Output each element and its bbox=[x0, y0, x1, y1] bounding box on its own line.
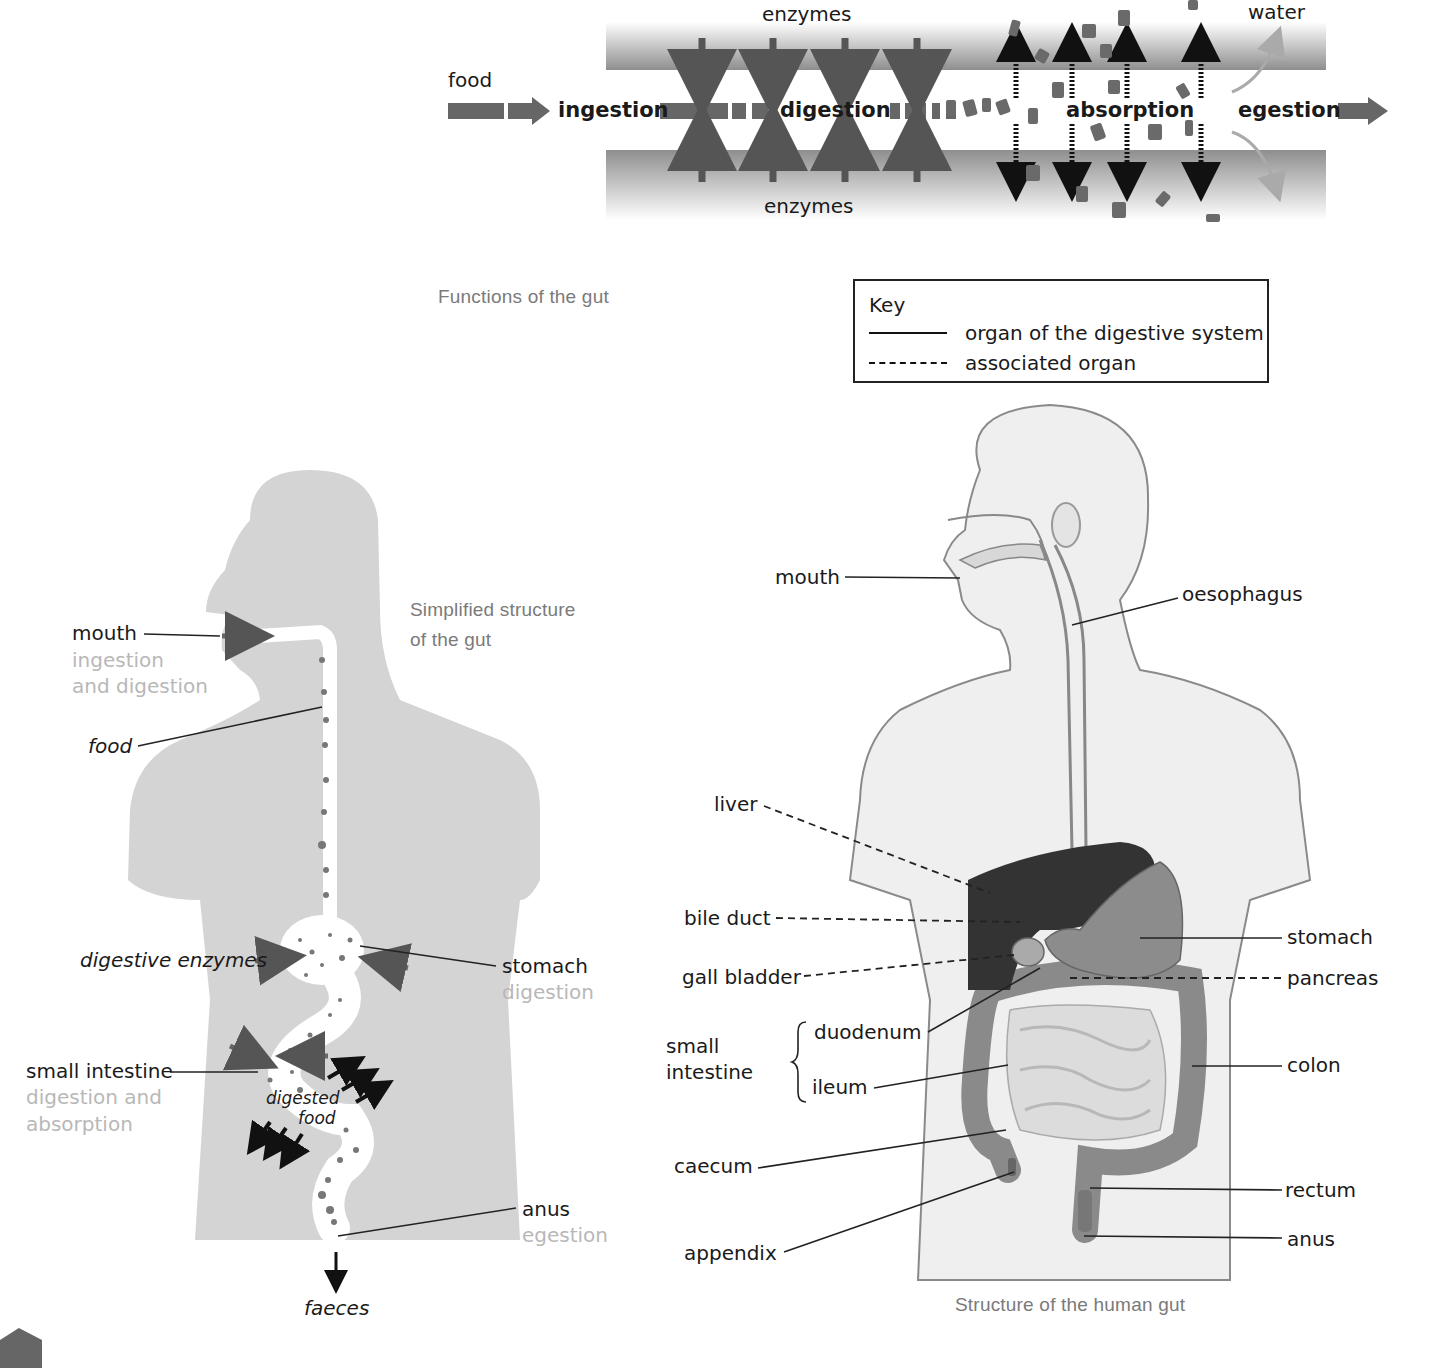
gut-wall-top bbox=[606, 22, 1326, 70]
struct-bile-duct-label: bile duct bbox=[684, 906, 771, 930]
key-item-dashed: associated organ bbox=[869, 351, 1136, 375]
simple-mouth-label: mouth bbox=[72, 621, 137, 645]
gut-wall-bottom bbox=[606, 150, 1326, 220]
food-arrow-icon bbox=[508, 97, 550, 125]
simple-mouth-function-2: and digestion bbox=[72, 674, 208, 698]
key-item-label: associated organ bbox=[965, 351, 1136, 375]
simplified-caption-1: Simplified structure bbox=[410, 598, 576, 622]
struct-caecum-label: caecum bbox=[674, 1154, 753, 1178]
struct-appendix-label: appendix bbox=[684, 1241, 777, 1265]
struct-small-intestine-label-1: small bbox=[666, 1034, 719, 1058]
faeces-label: faeces bbox=[304, 1296, 369, 1320]
simple-mouth-function-1: ingestion bbox=[72, 648, 164, 672]
struct-mouth-label: mouth bbox=[775, 565, 840, 589]
small-intestine-brace bbox=[792, 1022, 806, 1102]
struct-pancreas-label: pancreas bbox=[1287, 966, 1378, 990]
stage-ingestion: ingestion bbox=[558, 98, 669, 122]
water-label: water bbox=[1248, 0, 1305, 24]
simple-food-label: food bbox=[88, 734, 132, 758]
key-title: Key bbox=[869, 293, 905, 317]
simple-small-intestine-function-1: digestion and bbox=[26, 1085, 162, 1109]
digested-food-label-2: food bbox=[298, 1106, 336, 1130]
dashed-line-icon bbox=[869, 362, 947, 364]
simple-stomach-function: digestion bbox=[502, 980, 594, 1004]
functions-caption: Functions of the gut bbox=[438, 285, 609, 309]
simple-stomach-label: stomach bbox=[502, 954, 588, 978]
struct-colon-label: colon bbox=[1287, 1053, 1341, 1077]
stage-absorption: absorption bbox=[1066, 98, 1194, 122]
struct-liver-label: liver bbox=[714, 792, 757, 816]
stage-digestion: digestion bbox=[780, 98, 891, 122]
key-item-solid: organ of the digestive system bbox=[869, 321, 1264, 345]
struct-stomach-label: stomach bbox=[1287, 925, 1373, 949]
struct-oesophagus-label: oesophagus bbox=[1182, 582, 1303, 606]
structure-diagram bbox=[758, 405, 1310, 1280]
digestive-enzymes-label: digestive enzymes bbox=[80, 948, 267, 972]
struct-anus-label: anus bbox=[1287, 1227, 1335, 1251]
enzymes-top-label: enzymes bbox=[762, 2, 852, 26]
egestion-arrow-icon bbox=[1338, 97, 1388, 125]
simple-small-intestine-label: small intestine bbox=[26, 1059, 173, 1083]
struct-duodenum-label: duodenum bbox=[814, 1020, 921, 1044]
struct-small-intestine-label-2: intestine bbox=[666, 1060, 753, 1084]
key-legend: Key organ of the digestive system associ… bbox=[853, 279, 1269, 383]
key-item-label: organ of the digestive system bbox=[965, 321, 1264, 345]
enzymes-bottom-label: enzymes bbox=[764, 194, 854, 218]
simple-anus-function: egestion bbox=[522, 1223, 608, 1247]
structure-caption: Structure of the human gut bbox=[955, 1293, 1185, 1317]
simple-small-intestine-function-2: absorption bbox=[26, 1112, 133, 1136]
food-label: food bbox=[448, 68, 492, 92]
solid-line-icon bbox=[869, 332, 947, 334]
simplified-diagram bbox=[128, 470, 540, 1282]
simple-anus-label: anus bbox=[522, 1197, 570, 1221]
struct-rectum-label: rectum bbox=[1285, 1178, 1356, 1202]
stage-egestion: egestion bbox=[1238, 98, 1341, 122]
struct-ileum-label: ileum bbox=[812, 1075, 868, 1099]
struct-gall-bladder-label: gall bladder bbox=[682, 965, 801, 989]
simplified-caption-2: of the gut bbox=[410, 628, 491, 652]
